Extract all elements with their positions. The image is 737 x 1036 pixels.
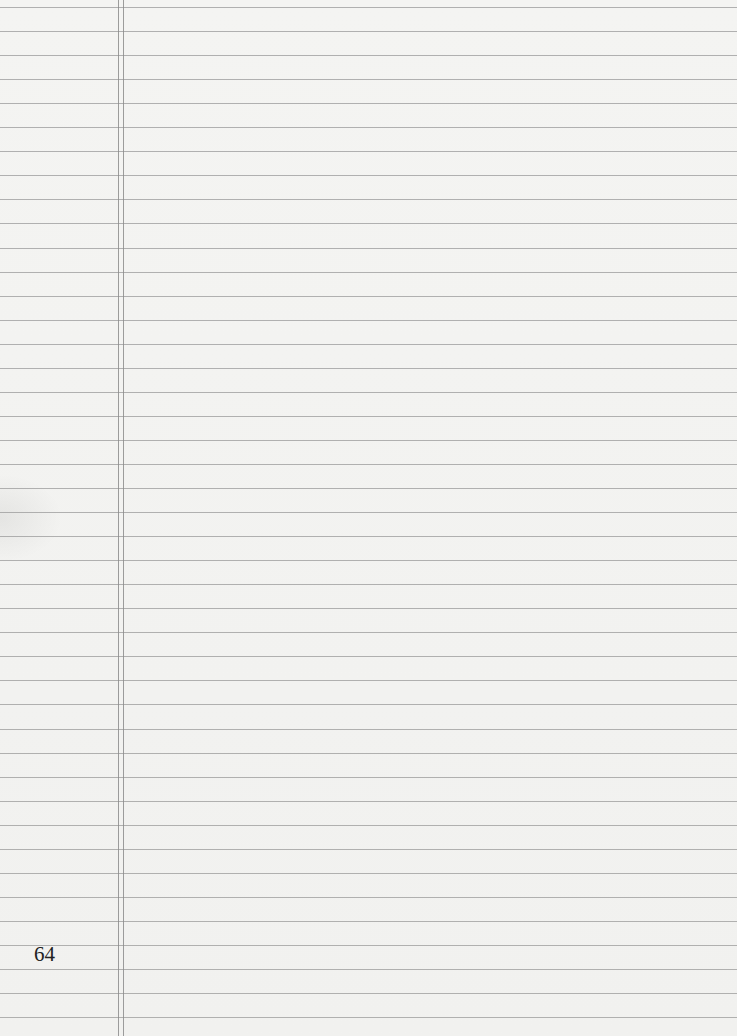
ruled-line bbox=[0, 464, 737, 465]
ruled-line bbox=[0, 55, 737, 56]
ruled-line bbox=[0, 993, 737, 994]
ruled-line bbox=[0, 392, 737, 393]
ruled-line bbox=[0, 608, 737, 609]
ruled-line bbox=[0, 969, 737, 970]
ruled-line bbox=[0, 7, 737, 8]
ruled-line bbox=[0, 945, 737, 946]
ruled-line bbox=[0, 729, 737, 730]
ruled-line bbox=[0, 151, 737, 152]
ruled-line bbox=[0, 296, 737, 297]
ruled-line bbox=[0, 680, 737, 681]
page-number: 64 bbox=[34, 942, 55, 966]
notebook-page: 64 bbox=[0, 0, 737, 1036]
ruled-line bbox=[0, 127, 737, 128]
ruled-line bbox=[0, 704, 737, 705]
ruled-line bbox=[0, 175, 737, 176]
ruled-line bbox=[0, 103, 737, 104]
ruled-line bbox=[0, 560, 737, 561]
ruled-line bbox=[0, 656, 737, 657]
ruled-line bbox=[0, 488, 737, 489]
ruled-line bbox=[0, 512, 737, 513]
margin-line-right bbox=[123, 0, 124, 1036]
ruled-line bbox=[0, 873, 737, 874]
ruled-line bbox=[0, 536, 737, 537]
ruled-line bbox=[0, 825, 737, 826]
ruled-line bbox=[0, 584, 737, 585]
ruled-line bbox=[0, 416, 737, 417]
ruled-line bbox=[0, 753, 737, 754]
ruled-line bbox=[0, 368, 737, 369]
ruled-line bbox=[0, 440, 737, 441]
ruled-line bbox=[0, 921, 737, 922]
ruled-line bbox=[0, 801, 737, 802]
ruled-line bbox=[0, 320, 737, 321]
ruled-line bbox=[0, 248, 737, 249]
ruled-line bbox=[0, 897, 737, 898]
ruled-line bbox=[0, 632, 737, 633]
ruled-line bbox=[0, 79, 737, 80]
ruled-line bbox=[0, 272, 737, 273]
ruled-line bbox=[0, 31, 737, 32]
ruled-line bbox=[0, 199, 737, 200]
margin-line-left bbox=[118, 0, 119, 1036]
ruled-line bbox=[0, 777, 737, 778]
ruled-line bbox=[0, 849, 737, 850]
ruled-line bbox=[0, 344, 737, 345]
ruled-line bbox=[0, 1017, 737, 1018]
ruled-line bbox=[0, 223, 737, 224]
